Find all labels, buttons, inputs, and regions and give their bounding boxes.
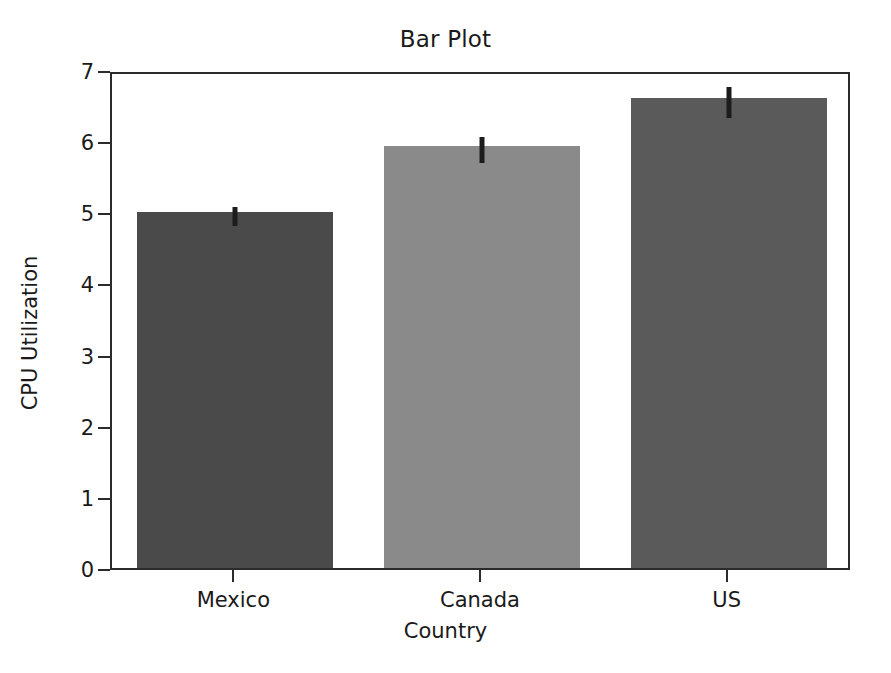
y-tick-label: 2 xyxy=(0,416,94,440)
bar-chart-figure: Bar Plot CPU Utilization Country 0123456… xyxy=(0,0,891,673)
y-tick-label: 6 xyxy=(0,131,94,155)
y-tick-label: 4 xyxy=(0,273,94,297)
x-tick-mark xyxy=(726,570,728,582)
y-tick-label: 0 xyxy=(0,558,94,582)
y-tick-mark xyxy=(98,213,110,215)
x-tick-label-mexico: Mexico xyxy=(113,588,353,612)
y-tick-label: 7 xyxy=(0,60,94,84)
y-tick-mark xyxy=(98,569,110,571)
y-tick-mark xyxy=(98,498,110,500)
y-tick-label: 1 xyxy=(0,487,94,511)
error-bar-canada xyxy=(480,137,485,163)
x-tick-mark xyxy=(232,570,234,582)
y-tick-mark xyxy=(98,427,110,429)
y-tick-label: 3 xyxy=(0,345,94,369)
bar-canada xyxy=(384,146,580,568)
x-tick-mark xyxy=(479,570,481,582)
x-tick-label-canada: Canada xyxy=(360,588,600,612)
y-tick-mark xyxy=(98,142,110,144)
chart-title: Bar Plot xyxy=(0,26,891,52)
bars-layer xyxy=(112,74,848,568)
bar-us xyxy=(631,98,827,568)
y-tick-mark xyxy=(98,71,110,73)
bar-mexico xyxy=(137,212,333,568)
error-bar-us xyxy=(726,87,731,118)
error-bar-mexico xyxy=(233,207,238,225)
y-tick-mark xyxy=(98,284,110,286)
x-axis-label: Country xyxy=(0,619,891,643)
plot-area xyxy=(110,72,850,570)
x-tick-label-us: US xyxy=(607,588,847,612)
y-tick-label: 5 xyxy=(0,202,94,226)
y-tick-mark xyxy=(98,356,110,358)
